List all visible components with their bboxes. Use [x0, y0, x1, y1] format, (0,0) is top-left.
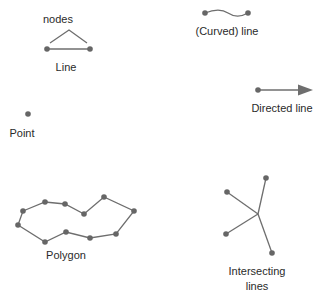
polygon-element: Polygon	[15, 194, 137, 261]
curved-line-node-end	[245, 10, 251, 16]
line-label: Line	[56, 61, 77, 73]
intersecting-line-node	[269, 250, 275, 256]
line-node-end	[87, 46, 93, 52]
intersecting-line-segment	[258, 214, 272, 253]
point-node	[25, 111, 31, 117]
curved-line-element: (Curved) line	[196, 10, 259, 37]
arrowhead-icon	[298, 85, 313, 96]
curved-line-node-start	[202, 10, 208, 16]
polygon-vertex	[101, 194, 107, 200]
polygon-vertex	[63, 229, 69, 235]
directed-line-node-start	[255, 87, 261, 93]
intersecting-lines-label-1: Intersecting	[229, 265, 286, 277]
nodes-pointer-lines	[50, 30, 87, 43]
polygon-label: Polygon	[46, 249, 86, 261]
line-element: nodes Line	[43, 13, 93, 73]
polygon-vertex	[87, 235, 93, 241]
intersecting-lines-label-2: lines	[246, 280, 269, 292]
polygon-vertex	[20, 208, 26, 214]
intersecting-line-node	[223, 231, 229, 237]
polygon-vertex	[131, 208, 137, 214]
polygon-vertex	[15, 222, 21, 228]
intersecting-lines-element: Intersecting lines	[223, 175, 285, 292]
point-label: Point	[9, 127, 34, 139]
diagram-canvas: nodes Line (Curved) line Directed line P…	[0, 0, 329, 296]
intersecting-line-segment	[226, 214, 258, 234]
intersecting-line-segment	[258, 178, 266, 214]
directed-line-element: Directed line	[251, 85, 313, 115]
curved-line-edge	[205, 10, 248, 16]
polygon-vertex	[81, 211, 87, 217]
polygon-vertex	[42, 199, 48, 205]
polygon-vertex	[62, 201, 68, 207]
polygon-vertex	[42, 239, 48, 245]
curved-line-label: (Curved) line	[196, 25, 259, 37]
intersecting-line-segment	[227, 192, 258, 214]
polygon-vertex	[113, 231, 119, 237]
point-element: Point	[9, 111, 34, 139]
intersecting-line-node	[263, 175, 269, 181]
directed-line-label: Directed line	[251, 102, 312, 114]
intersecting-line-node	[224, 189, 230, 195]
nodes-annotation-label: nodes	[43, 13, 73, 25]
line-node-start	[44, 46, 50, 52]
